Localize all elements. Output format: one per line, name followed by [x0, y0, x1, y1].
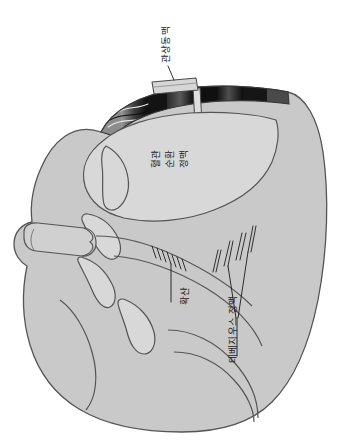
label-wedge-line-2: 순환: [165, 150, 175, 168]
anatomical-figure: 관상동맥 혈관 순환 정맥 확산 테베지우스 정맥: [0, 0, 343, 441]
heart-cross-section-diagram: [0, 0, 343, 441]
great-vessel-stump: [24, 223, 96, 256]
label-coronary-artery: 관상동맥: [161, 26, 171, 63]
label-thebesian-vein: 테베지우스 정맥: [228, 295, 238, 363]
label-wedge-line-3: 정맥: [179, 150, 189, 168]
label-diffusion: 확산: [180, 287, 190, 305]
label-wedge-line-1: 혈관: [151, 150, 161, 168]
leader-coronary-artery: [168, 66, 174, 80]
